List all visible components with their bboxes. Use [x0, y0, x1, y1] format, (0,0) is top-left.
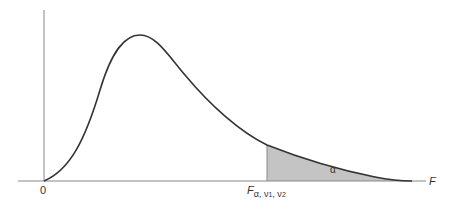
x-axis-label: F [429, 175, 436, 187]
alpha-label: α [330, 164, 336, 175]
sub-comma: , ν [272, 189, 282, 199]
critical-main: F [247, 184, 254, 196]
chart-canvas [0, 0, 450, 212]
chart: 0 F α Fα, ν1, ν2 [0, 0, 450, 212]
sub-a: α, ν [254, 189, 269, 199]
origin-label: 0 [40, 184, 46, 196]
critical-sub: α, ν1, ν2 [254, 189, 286, 199]
density-curve [44, 35, 412, 181]
shaded-tail-area [267, 145, 412, 181]
sub-2: 2 [282, 191, 286, 198]
critical-value-label: Fα, ν1, ν2 [247, 184, 286, 196]
